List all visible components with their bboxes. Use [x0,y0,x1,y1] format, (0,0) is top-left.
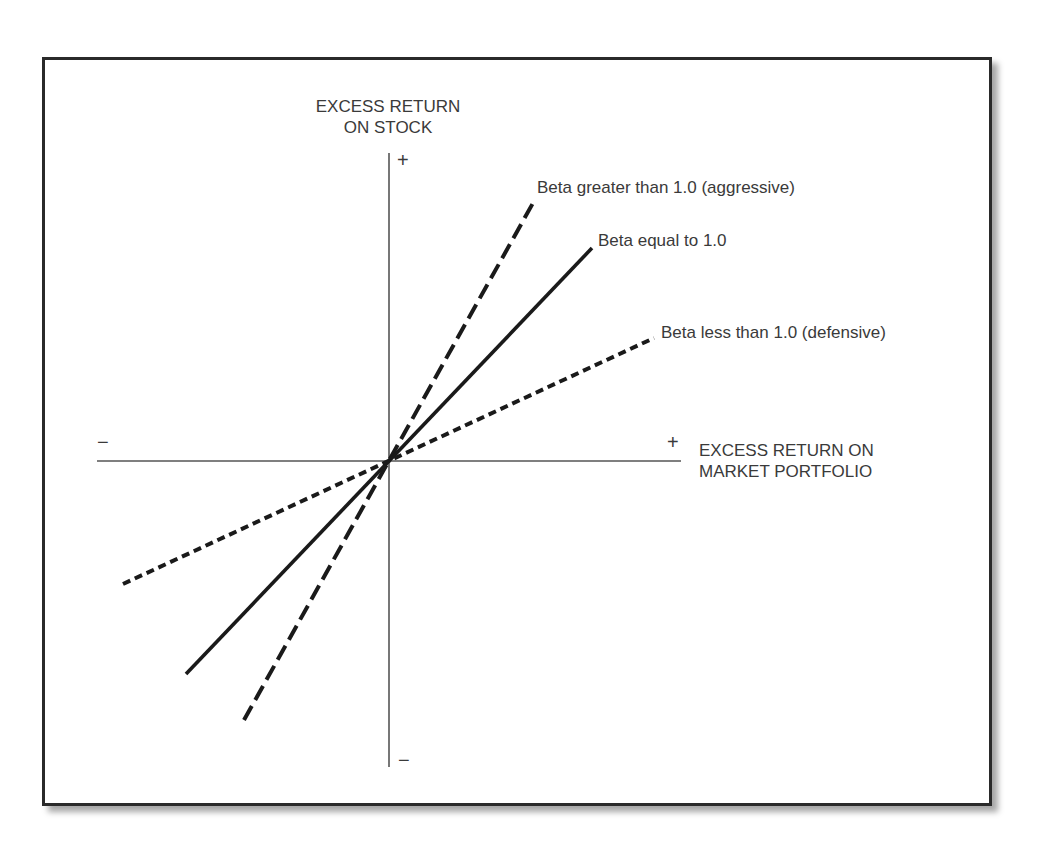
x-axis-label-line2: MARKET PORTFOLIO [699,461,874,482]
x-minus-sign: − [97,432,109,452]
x-axis-label: EXCESS RETURN ON MARKET PORTFOLIO [699,440,874,482]
y-axis-label: EXCESS RETURN ON STOCK [303,96,473,138]
x-axis-label-line1: EXCESS RETURN ON [699,440,874,461]
beta-one-label: Beta equal to 1.0 [598,230,727,251]
y-axis-label-line1: EXCESS RETURN [303,96,473,117]
defensive-label: Beta less than 1.0 (defensive) [661,322,886,343]
x-plus-sign: + [667,432,679,452]
y-plus-sign: + [397,150,409,170]
y-axis-label-line2: ON STOCK [303,117,473,138]
y-minus-sign: − [398,750,410,770]
beta-diagram [0,0,1042,854]
aggressive-label: Beta greater than 1.0 (aggressive) [537,177,795,198]
